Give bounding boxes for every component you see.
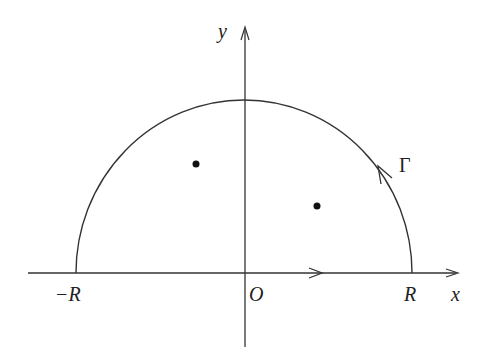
- right-endpoint-label: R: [403, 283, 416, 305]
- left-endpoint-label: −R: [55, 283, 81, 305]
- singular-point-2: [314, 203, 321, 210]
- contour-diagram: y x O −R R Γ: [0, 0, 487, 357]
- x-axis-label: x: [450, 283, 460, 305]
- y-axis-label: y: [216, 20, 227, 43]
- contour-arc: [76, 100, 412, 273]
- arc-direction-arrow-icon: [378, 166, 392, 184]
- origin-label: O: [249, 283, 263, 305]
- singular-point-1: [193, 161, 200, 168]
- arc-label: Γ: [399, 154, 411, 176]
